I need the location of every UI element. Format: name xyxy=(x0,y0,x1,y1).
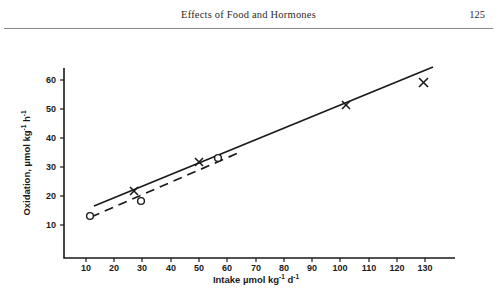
data-point-cross xyxy=(419,78,428,87)
x-tick-label: 100 xyxy=(332,263,347,273)
axis-spines xyxy=(64,68,455,258)
fit-line-dashed xyxy=(91,153,238,217)
x-tick-label: 30 xyxy=(137,263,147,273)
x-tick-label: 110 xyxy=(362,263,377,273)
y-tick-label: 30 xyxy=(46,162,56,172)
page-header: Effects of Food and Hormones 125 xyxy=(0,0,497,30)
plot-canvas: 10 20 30 40 50 60 10 20 30 40 xyxy=(0,30,497,294)
x-tick-label: 10 xyxy=(81,263,91,273)
figure-scatter-plot: 10 20 30 40 50 60 10 20 30 40 xyxy=(0,30,497,294)
x-axis-title: Intake µmol kg-1 d-1 xyxy=(213,273,300,285)
page-number: 125 xyxy=(469,9,485,20)
data-point-circle xyxy=(215,155,222,162)
x-axis-tick-labels: 10 20 30 40 50 60 70 80 90 100 110 120 1… xyxy=(81,263,433,273)
header-title: Effects of Food and Hormones xyxy=(0,9,497,20)
x-tick-label: 20 xyxy=(109,263,119,273)
x-tick-label: 120 xyxy=(389,263,404,273)
x-tick-label: 80 xyxy=(279,263,289,273)
y-axis-tick-labels: 10 20 30 40 50 60 xyxy=(46,75,56,230)
y-axis-title: Oxidation, µmol kg-1 h-1 xyxy=(20,110,32,216)
x-tick-label: 70 xyxy=(251,263,261,273)
y-tick-label: 20 xyxy=(46,191,56,201)
header-divider xyxy=(4,28,493,29)
fit-line-solid xyxy=(94,67,433,206)
data-points-cross xyxy=(130,78,428,195)
x-tick-label: 50 xyxy=(194,263,204,273)
data-point-circle xyxy=(138,198,145,205)
x-tick-label: 40 xyxy=(166,263,176,273)
y-tick-label: 50 xyxy=(46,104,56,114)
y-tick-label: 10 xyxy=(46,220,56,230)
x-tick-label: 60 xyxy=(222,263,232,273)
x-tick-label: 90 xyxy=(307,263,317,273)
y-tick-label: 60 xyxy=(46,75,56,85)
x-tick-label: 130 xyxy=(417,263,432,273)
data-point-circle xyxy=(87,213,94,220)
y-tick-label: 40 xyxy=(46,133,56,143)
